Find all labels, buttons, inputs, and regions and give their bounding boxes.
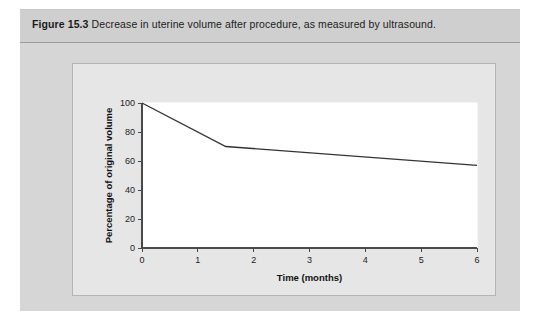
x-tick-label: 3 bbox=[307, 255, 312, 265]
line-chart: 0204060801000123456Time (months)Percenta… bbox=[73, 64, 497, 297]
x-axis-title: Time (months) bbox=[277, 272, 342, 283]
chart-panel: 0204060801000123456Time (months)Percenta… bbox=[72, 63, 496, 296]
y-tick-label: 40 bbox=[125, 185, 135, 195]
x-tick-label: 2 bbox=[251, 255, 256, 265]
y-tick-label: 100 bbox=[120, 98, 135, 108]
figure-caption-band: Figure 15.3 Decrease in uterine volume a… bbox=[20, 10, 520, 43]
x-tick-label: 4 bbox=[363, 255, 368, 265]
y-tick-label: 0 bbox=[130, 243, 135, 253]
figure-caption: Figure 15.3 Decrease in uterine volume a… bbox=[32, 18, 436, 30]
plot-area bbox=[142, 103, 477, 248]
x-tick-label: 1 bbox=[195, 255, 200, 265]
y-tick-label: 20 bbox=[125, 214, 135, 224]
figure-box: Figure 15.3 Decrease in uterine volume a… bbox=[20, 9, 520, 311]
x-tick-label: 6 bbox=[474, 255, 479, 265]
figure-screenshot: Figure 15.3 Decrease in uterine volume a… bbox=[0, 0, 545, 331]
figure-label: Figure 15.3 bbox=[32, 18, 89, 30]
figure-caption-text: Decrease in uterine volume after procedu… bbox=[92, 18, 436, 30]
y-tick-label: 80 bbox=[125, 127, 135, 137]
y-tick-label: 60 bbox=[125, 156, 135, 166]
y-axis-title: Percentage of original volume bbox=[103, 108, 114, 244]
x-tick-label: 0 bbox=[139, 255, 144, 265]
x-tick-label: 5 bbox=[419, 255, 424, 265]
